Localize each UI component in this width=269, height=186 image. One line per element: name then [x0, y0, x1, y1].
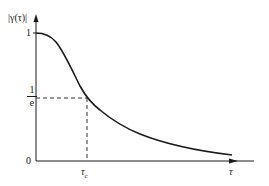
tau-c-subscript: c: [85, 172, 88, 180]
coherence-curve: [36, 33, 232, 155]
y-tick-1-over-e: 1 e: [27, 85, 37, 108]
y-tick-1: 1: [26, 28, 31, 38]
coherence-chart: [0, 0, 269, 186]
x-axis-arrow-icon: [229, 159, 238, 164]
frac-numerator: 1: [27, 85, 37, 97]
y-axis-label: |γ(τ)|: [8, 13, 27, 23]
y-axis-arrow-icon: [34, 14, 39, 22]
x-tick-tau-c: τc: [81, 167, 88, 180]
frac-denominator: e: [27, 97, 37, 108]
y-tick-0: 0: [26, 156, 31, 166]
x-axis-label: τ: [229, 167, 233, 177]
